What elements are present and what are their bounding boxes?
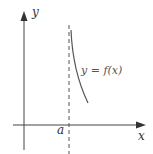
x-axis-label: x: [138, 130, 145, 142]
curve-label: y = f(x): [81, 65, 122, 76]
x-axis-arrow-icon: [136, 122, 146, 129]
y-axis-arrow-icon: [21, 11, 28, 21]
graph-canvas: [0, 0, 153, 154]
asymptote-label: a: [57, 124, 64, 136]
y-axis-label: y: [32, 6, 39, 18]
